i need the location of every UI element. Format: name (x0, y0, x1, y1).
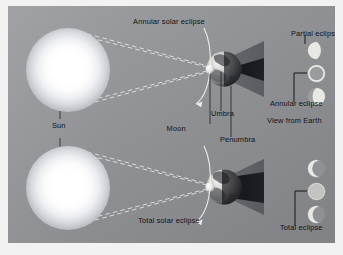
partial-eclipse-label: Partial eclipse (291, 30, 335, 37)
annular-solar-eclipse-title: Annular solar eclipse (133, 18, 205, 25)
total-eclipse-leader (295, 191, 307, 226)
umbra-label: Umbra (211, 110, 234, 117)
sun-label: Sun (52, 122, 66, 129)
total-eclipse-label: Total eclipse (280, 224, 323, 231)
callout-leaders (294, 35, 307, 226)
diagram-canvas: Annular solar eclipse Total solar eclips… (8, 6, 335, 243)
light-rays-total (80, 150, 209, 224)
annular-eclipse-leader (294, 73, 307, 102)
light-rays-annular (80, 32, 209, 106)
annular-eclipse-label: Annular eclipse (270, 100, 323, 107)
penumbra-label: Penumbra (220, 136, 255, 143)
view-from-earth-label: View from Earth (267, 117, 322, 124)
total-panel-geometry (60, 138, 264, 225)
annular-panel-geometry (60, 28, 264, 137)
total-solar-eclipse-title: Total solar eclipse (138, 217, 200, 224)
moon-label: Moon (167, 125, 186, 132)
eclipse-diagram-figure: Annular solar eclipse Total solar eclips… (0, 0, 343, 255)
